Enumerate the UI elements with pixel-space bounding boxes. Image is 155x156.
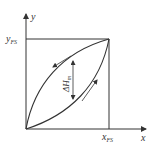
x-fs-label: xFS [101, 131, 113, 143]
delta-h-label: ΔHm [61, 75, 72, 93]
y-axis-label: y [30, 11, 36, 22]
increasing-direction-arrow [82, 80, 97, 101]
hysteresis-diagram: ΔHm y x yFS xFS [0, 0, 155, 156]
y-fs-label: yFS [5, 33, 17, 45]
decreasing-direction-arrow [53, 56, 71, 67]
x-axis-label: x [140, 132, 146, 143]
